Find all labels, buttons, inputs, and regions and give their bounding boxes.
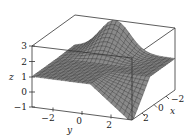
y-axis (53, 108, 111, 119)
z-axis-label: z (8, 72, 14, 82)
x-tick-label: 0 (158, 103, 164, 113)
x-tick-label: −2 (171, 94, 184, 104)
z-tick-label: 0 (21, 87, 27, 97)
y-tick-label: 2 (106, 120, 112, 130)
z-tick-label: 2 (21, 57, 27, 67)
x-tick-label: 2 (143, 113, 149, 123)
y-axis-label: y (66, 125, 73, 135)
y-tick-label: 0 (76, 116, 82, 126)
surface-plot: 3 2 1 0 −1 z −2 0 2 y −2 0 2 x (0, 0, 187, 138)
z-tick-label: 3 (21, 41, 27, 51)
x-axis-label: x (170, 106, 175, 116)
y-tick-label: −2 (41, 113, 54, 123)
z-tick-label: 1 (21, 72, 27, 82)
z-tick-label: −1 (14, 102, 27, 112)
